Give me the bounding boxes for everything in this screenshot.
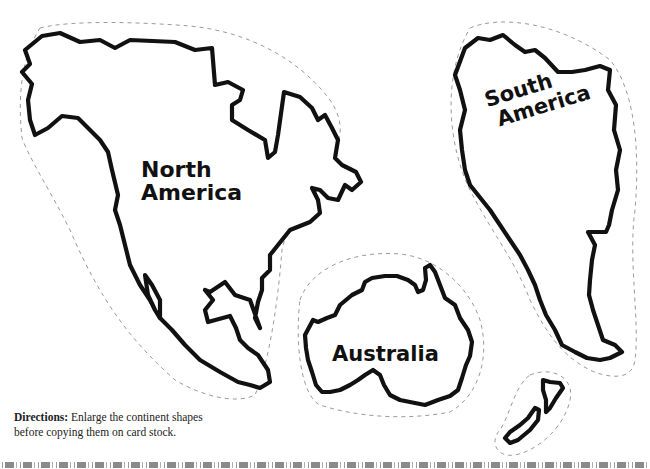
north-america-label-line2: America	[141, 181, 242, 204]
directions-heading: Directions:	[14, 411, 68, 423]
new-zealand-north-island	[543, 380, 563, 412]
australia-label: Australia	[332, 343, 439, 365]
new-zealand-south-island	[505, 408, 539, 443]
north-america-label-line1: North	[141, 158, 242, 181]
australia-label-line1: Australia	[332, 343, 439, 365]
directions-body-1: Enlarge the continent shapes	[68, 411, 203, 423]
directions-line2: before copying them on card stock.	[14, 425, 203, 440]
directions-line1: Directions: Enlarge the continent shapes	[14, 410, 203, 425]
north-america-label: North America	[141, 158, 242, 204]
australia-shape	[305, 265, 472, 405]
page-border-strip	[0, 462, 650, 468]
directions-text: Directions: Enlarge the continent shapes…	[14, 410, 203, 440]
